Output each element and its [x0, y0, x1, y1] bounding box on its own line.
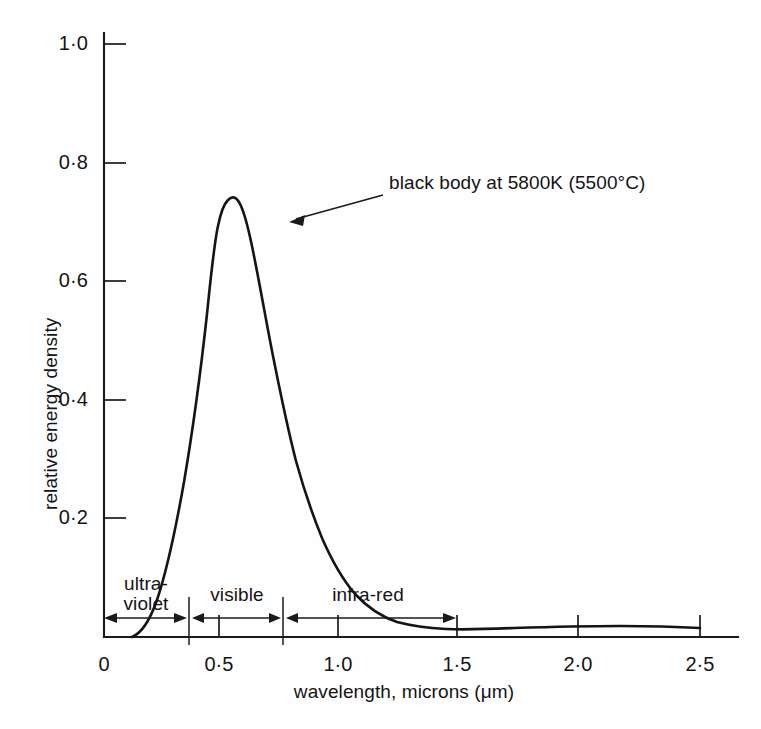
band-label-ultra-violet: ultra-violet: [107, 574, 185, 614]
blackbody-spectrum-figure: 1·0 0·8 0·6 0·4 0·2 0 0·5 1·0 1·5 2·0 2·…: [0, 0, 761, 729]
band-label-ultra-violet-line1: ultra-: [124, 573, 168, 594]
y-axis-title: relative energy density: [40, 318, 62, 510]
x-tick-label-1-0: 1·0: [308, 653, 368, 676]
y-tick-label-0-6: 0·6: [26, 269, 88, 292]
band-label-visible: visible: [197, 585, 277, 605]
blackbody-annotation-label: black body at 5800K (5500°C): [389, 172, 646, 194]
blackbody-curve: [132, 197, 700, 637]
x-tick-label-2-0: 2·0: [548, 653, 608, 676]
y-axis-ticks: [104, 44, 126, 518]
plot-canvas: [0, 0, 761, 729]
x-tick-label-0: 0: [74, 653, 134, 676]
band-label-infra-red: infra-red: [290, 585, 446, 605]
band-label-ultra-violet-line2: violet: [124, 593, 169, 614]
y-tick-label-0-8: 0·8: [26, 151, 88, 174]
annotation-leader: [289, 195, 383, 226]
x-tick-label-0-5: 0·5: [189, 653, 249, 676]
x-axis-title: wavelength, microns (μm): [234, 681, 574, 703]
x-tick-label-1-5: 1·5: [427, 653, 487, 676]
y-tick-label-1-0: 1·0: [26, 32, 88, 55]
x-tick-label-2-5: 2·5: [670, 653, 730, 676]
